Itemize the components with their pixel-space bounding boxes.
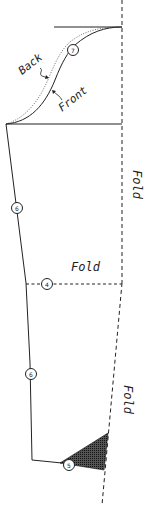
label-fold-right-upper: Fold [130,170,144,200]
marker-5: 5 [64,460,75,471]
svg-text:6: 6 [29,371,33,378]
fold-line-right-lower [102,283,122,505]
front-arrow-icon [54,92,62,100]
side-seam [6,124,32,460]
svg-text:6: 6 [15,205,19,212]
marker-6-upper: 6 [12,203,23,214]
svg-text:7: 7 [71,47,75,54]
hem-line [32,460,62,463]
pattern-diagram: Back Front Fold Fold Fold 7 6 4 6 5 [0,0,150,510]
marker-7: 7 [68,45,79,56]
label-fold-right-lower: Fold [121,385,135,415]
pattern-svg: Back Front Fold Fold Fold 7 6 4 6 5 [0,0,150,510]
back-arrowhead-icon [45,75,49,79]
marker-4: 4 [42,279,53,290]
label-fold-middle: Fold [71,260,101,274]
svg-text:4: 4 [45,281,49,288]
svg-text:5: 5 [67,462,71,469]
marker-6-lower: 6 [26,369,37,380]
